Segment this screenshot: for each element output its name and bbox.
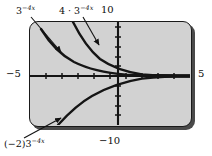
calculator-screen [29, 21, 192, 127]
x-max-label: 5 [198, 69, 204, 79]
x-min-label: −5 [6, 69, 21, 79]
annotation-curve-3: (−2)3−4x [4, 139, 45, 149]
curve-neg2-times-3-pow-neg4x [58, 76, 190, 125]
annotation-curve-3-prefix: (−2) [4, 138, 25, 149]
annotation-curve-2: 4 · 3−4x [59, 6, 93, 16]
annotation-curve-1-exponent: −4x [22, 4, 35, 12]
exponential-decay-figure: 3−4x 4 · 3−4x (−2)3−4x 10 −10 −5 5 [0, 0, 212, 156]
annotation-curve-2-prefix: 4 · [59, 5, 74, 16]
plot-canvas [30, 22, 190, 125]
annotation-curve-2-exponent: −4x [80, 4, 93, 12]
curve-3-pow-neg4x [41, 29, 190, 76]
annotation-curve-3-exponent: −4x [31, 137, 44, 145]
y-max-label: 10 [101, 5, 114, 15]
y-min-label: −10 [99, 136, 120, 146]
annotation-curve-1: 3−4x [16, 6, 35, 16]
